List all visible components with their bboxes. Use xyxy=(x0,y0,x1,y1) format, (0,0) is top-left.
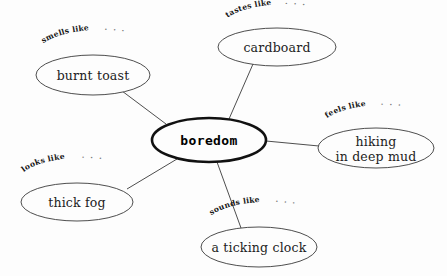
node-label-smells: burnt toast xyxy=(57,68,130,83)
node-feels[interactable]: hiking in deep mud feels like . . . xyxy=(318,98,434,168)
category-label-sounds: sounds like xyxy=(207,195,260,217)
edge-smells xyxy=(122,91,166,124)
category-label-looks: looks like xyxy=(20,152,66,174)
node-sounds[interactable]: a ticking clock sounds like . . . xyxy=(201,195,317,267)
node-label-sounds: a ticking clock xyxy=(211,240,306,255)
node-looks[interactable]: thick fog looks like . . . xyxy=(20,151,133,221)
category-ellipsis-feels: . . . xyxy=(381,98,403,108)
node-label-looks: thick fog xyxy=(48,195,106,210)
category-label-feels: feels like xyxy=(323,99,366,120)
category-ellipsis-tastes: . . . xyxy=(285,0,307,7)
edge-feels xyxy=(266,141,319,146)
node-label-feels-line2: in deep mud xyxy=(336,149,417,164)
node-label-tastes: cardboard xyxy=(243,40,310,55)
category-ellipsis-looks: . . . xyxy=(82,151,104,161)
category-ellipsis-smells: . . . xyxy=(105,23,127,34)
edge-looks xyxy=(127,159,177,189)
node-label-central: boredom xyxy=(180,133,238,148)
sensory-web-diagram: burnt toast smells like . . . cardboard … xyxy=(0,0,447,276)
edge-sounds xyxy=(217,162,241,228)
category-ellipsis-sounds: . . . xyxy=(275,195,297,206)
edge-tastes xyxy=(229,64,253,119)
node-tastes[interactable]: cardboard tastes like . . . xyxy=(218,0,336,66)
category-label-tastes: tastes like xyxy=(224,0,272,19)
category-label-smells: smells like xyxy=(39,23,89,45)
node-label-feels-line1: hiking xyxy=(356,134,397,149)
diagram-canvas: burnt toast smells like . . . cardboard … xyxy=(0,0,447,276)
node-central[interactable]: boredom xyxy=(152,118,266,162)
node-smells[interactable]: burnt toast smells like . . . xyxy=(36,23,150,95)
